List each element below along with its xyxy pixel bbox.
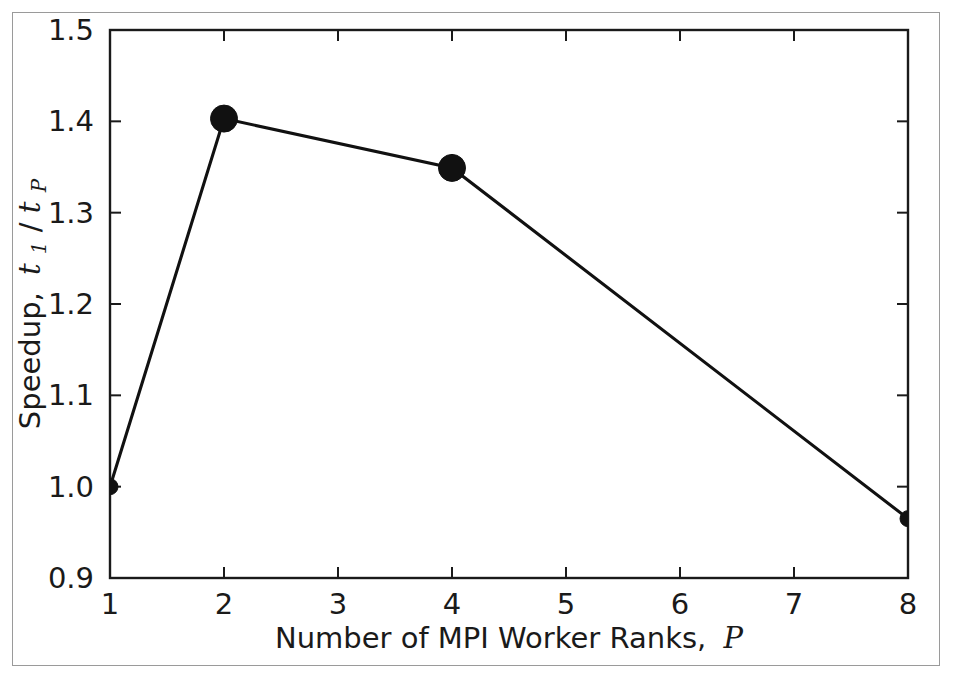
x-axis-title-variable: P <box>723 621 744 655</box>
y-axis-title-numerator-subscript: 1 <box>27 241 51 254</box>
x-tick-label: 6 <box>671 587 689 621</box>
data-point-marker <box>211 105 238 132</box>
x-axis-title: Number of MPI Worker Ranks, P <box>275 621 744 655</box>
y-tick-label: 1.3 <box>48 196 94 230</box>
x-tick-label: 5 <box>557 587 575 621</box>
x-axis-title-text: Number of MPI Worker Ranks, <box>275 621 706 655</box>
y-tick-label: 1.5 <box>48 13 94 47</box>
x-tick-label: 8 <box>899 587 917 621</box>
y-tick-label: 1.2 <box>48 287 94 321</box>
y-axis-tick-labels: 0.91.01.11.21.31.41.5 <box>48 13 94 595</box>
y-tick-label: 1.0 <box>48 470 94 504</box>
data-point-marker <box>900 511 916 527</box>
y-tick-label: 1.4 <box>48 104 94 138</box>
x-tick-label: 1 <box>101 587 119 621</box>
y-axis-title-numerator: t <box>13 263 47 275</box>
x-tick-label: 4 <box>443 587 461 621</box>
x-tick-label: 7 <box>785 587 803 621</box>
chart-plot-area: 0.91.01.11.21.31.41.5 12345678 Number of… <box>0 0 954 679</box>
x-tick-label: 2 <box>215 587 233 621</box>
y-tick-label: 1.1 <box>48 378 94 412</box>
y-axis-title-slash: / <box>13 222 47 232</box>
y-axis-title-text: Speedup, <box>13 292 47 429</box>
x-tick-label: 3 <box>329 587 347 621</box>
data-point-marker <box>102 479 118 495</box>
speedup-series-line <box>110 119 908 519</box>
chart-svg: 0.91.01.11.21.31.41.5 12345678 Number of… <box>0 0 954 679</box>
speedup-series-markers <box>102 105 916 527</box>
y-tick-label: 0.9 <box>48 561 94 595</box>
y-axis-title-denominator: t <box>13 201 47 213</box>
data-point-marker <box>439 154 466 181</box>
y-axis-title-denominator-subscript: P <box>27 178 51 193</box>
y-axis-ticks <box>110 121 908 486</box>
x-axis-tick-labels: 12345678 <box>101 587 917 621</box>
x-axis-ticks <box>224 30 794 578</box>
